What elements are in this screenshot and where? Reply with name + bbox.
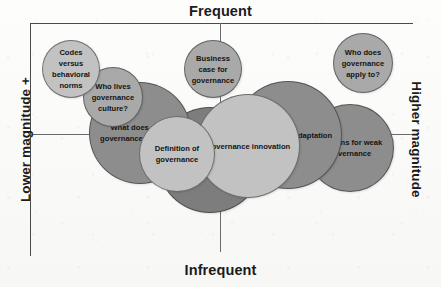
bubble-definition-of-governance[interactable]: Definition of governance [139, 116, 215, 192]
bubble-business-case-for-governance[interactable]: Business case for governance [184, 40, 242, 98]
frame-top-border [30, 23, 413, 24]
bubble-label: Definition of governance [146, 143, 209, 165]
bubble-who-does-governance-apply-to[interactable]: Who does governance apply to? [333, 33, 393, 93]
bubble-label: Who lives governance culture? [89, 81, 138, 114]
bubble-label: Governance innovation [204, 141, 292, 152]
axis-label-infrequent: Infrequent [0, 262, 441, 278]
bubble-label: Business case for governance [190, 53, 237, 86]
bubble-codes-versus-behavioral-norms[interactable]: Codes versus behavioral norms [42, 40, 100, 98]
axis-label-lower-magnitude: Lower magnitude + [18, 30, 33, 250]
axis-label-frequent: Frequent [0, 3, 441, 19]
axis-label-higher-magnitude: Higher magnitude [409, 30, 424, 250]
bubble-label: Codes versus behavioral norms [48, 47, 95, 91]
diagram-canvas: Frequent Infrequent Lower magnitude + Hi… [0, 0, 441, 287]
bubble-label: Who does governance apply to? [339, 47, 388, 80]
